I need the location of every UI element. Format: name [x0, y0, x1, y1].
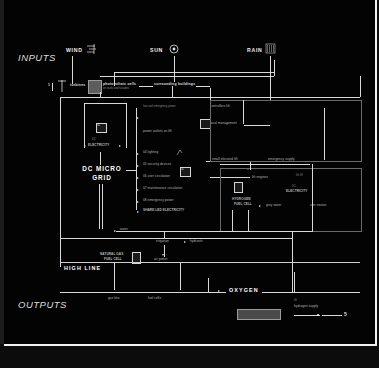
right-inner-divider	[324, 108, 325, 160]
arrow-load-left-3	[137, 165, 139, 167]
right-branch-riser	[243, 100, 244, 124]
annotation-stack-1: 1L	[181, 169, 184, 172]
hub-label-line2: GRID	[78, 175, 126, 181]
footer-node-fuel-cells: fuel cells	[148, 297, 161, 300]
annotation-stack-2: 1L	[97, 125, 100, 128]
annotation-terminal: 5	[344, 312, 347, 317]
right-riser	[360, 76, 361, 97]
terminal-rail-out	[322, 315, 342, 316]
hub-label-line1: DC MICRO	[78, 166, 126, 172]
lower-rail-a	[116, 231, 312, 232]
right-lower-frame	[220, 168, 362, 232]
arrow-oxygen	[218, 290, 220, 292]
top-rail-a-left-drop	[114, 72, 115, 86]
load-left-4: 06 user circulation	[143, 175, 170, 178]
bus-label-electricity-left-top: DC	[92, 139, 96, 142]
hub-riser	[100, 152, 101, 165]
section-label-inputs: INPUTS	[18, 53, 56, 63]
source-label-wind: WIND	[66, 48, 83, 53]
arrow-load-left-4	[137, 177, 139, 179]
wind-drop-line	[72, 56, 73, 84]
rain-to-frame-riser	[270, 76, 271, 100]
diagram-canvas: INPUTS OUTPUTS WIND SUN RAIN	[0, 0, 379, 368]
air-power-riser	[164, 245, 165, 257]
rain-riser	[274, 60, 275, 76]
bus-label-natural-gas-2: FUEL CELL	[104, 258, 122, 261]
left-inner-riser	[84, 103, 85, 148]
oxygen-riser-b	[294, 272, 295, 292]
wind-lines-icon	[86, 43, 98, 55]
top-rail-a	[114, 72, 274, 73]
facility-thumbnail-icon	[237, 309, 281, 320]
arrow-load-left-1	[137, 117, 139, 119]
arrow-load-left-2	[137, 153, 139, 155]
footer-node-air-power: air power	[154, 258, 168, 261]
load-left-5: 07 maintenance circulation	[143, 187, 182, 190]
pv-down	[172, 86, 173, 98]
load-left-6: 08 emergency power	[143, 199, 174, 202]
generator-label-buildings: surrounding buildings	[154, 83, 195, 86]
rain-drops-icon	[265, 43, 277, 55]
left-inner-top	[84, 103, 126, 104]
hub-to-list-line	[126, 170, 136, 171]
oxygen-riser-a	[208, 278, 209, 292]
right-upper-frame	[210, 100, 362, 162]
hub-down-b	[102, 184, 103, 229]
wind-turbine-icon	[56, 78, 70, 94]
sun-circle-icon	[169, 44, 180, 55]
buildings-out-line	[196, 86, 210, 87]
load-left-2: 04 lighting	[143, 151, 158, 154]
arrow-air-power	[162, 254, 164, 256]
generator-label-turbines: turbines	[70, 84, 85, 87]
footer-node-gas-line: gas line	[108, 297, 119, 300]
turbine-bracket	[52, 83, 53, 91]
load-left-1: power outlets on lift	[143, 130, 172, 133]
arrow-electricity-left-out	[119, 145, 121, 147]
top-rail-b	[100, 76, 274, 77]
pv-to-buildings-line	[139, 86, 153, 87]
bus-label-natural-gas-1: NATURAL GAS	[100, 253, 123, 256]
oxygen-rail	[60, 292, 360, 293]
arrow-load-left-7	[137, 211, 139, 213]
high-line-drop-b	[180, 262, 181, 290]
footer-node-hydrogen-label-2: hydrogen supply	[294, 305, 318, 308]
buildings-down	[210, 88, 211, 100]
annotation-stack-3: 1	[48, 84, 50, 87]
hydrogen-down	[232, 210, 233, 232]
bus-label-electricity-left: ELECTRICITY	[88, 144, 109, 147]
arrow-water	[114, 230, 116, 232]
terminal-node-dot	[317, 314, 319, 316]
diagram-panel: INPUTS OUTPUTS WIND SUN RAIN	[4, 0, 377, 346]
load-left-3: 05 security devices	[143, 163, 171, 166]
bus-label-oxygen: OXYGEN	[226, 288, 262, 293]
lower-rail-b	[60, 238, 292, 239]
footer-node-hydrants: hydrants	[190, 240, 203, 243]
rain-drop-line	[270, 56, 271, 76]
left-inner-riser-2	[126, 103, 127, 148]
right-down-trunk	[292, 231, 293, 293]
bus-label-high-line: HIGH LINE	[64, 266, 101, 271]
source-label-rain: RAIN	[247, 48, 262, 53]
footer-node-irrigation: irrigation	[156, 240, 169, 243]
load-left-7: SHARE LED ELECTRICITY	[143, 209, 184, 212]
arrow-hydrants	[184, 241, 186, 243]
footer-node-water: water	[120, 228, 128, 231]
pv-chip-down	[100, 92, 101, 98]
right-far-trunk	[312, 164, 313, 232]
generator-sub-photovoltaic: on roofs and facades	[103, 88, 129, 91]
load-left-0: low roof emergency power	[143, 106, 176, 109]
left-trunk	[60, 97, 61, 267]
hydrogen-down-2	[248, 210, 249, 232]
sun-drop-line	[174, 56, 175, 82]
lighting-icon	[176, 149, 184, 157]
arrow-electricity-left-in	[84, 145, 86, 147]
right-mid-rail	[220, 164, 310, 165]
source-label-sun: SUN	[150, 48, 163, 53]
arrow-load-left-5	[137, 189, 139, 191]
generator-label-photovoltaic: photovoltaic cells	[103, 83, 136, 86]
hub-down-a	[99, 184, 100, 229]
high-line-drop-a	[114, 262, 115, 290]
section-label-outputs: OUTPUTS	[18, 300, 67, 310]
irrigation-riser	[164, 231, 165, 239]
footer-node-hydrogen-label-1: lift	[294, 300, 297, 303]
